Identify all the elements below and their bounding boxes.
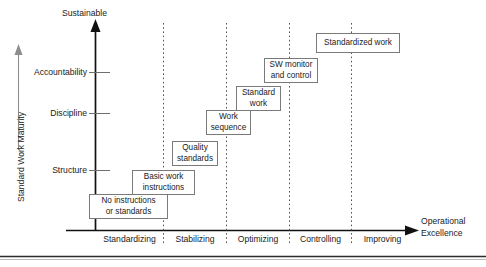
x-axis-title: Operational Excellence — [421, 216, 465, 239]
x-tick-label-standardizing: Standardizing — [96, 234, 163, 244]
box-no-instructions-or-standards: No instructions or standards — [89, 194, 168, 219]
box-standardized-work: Standardized work — [316, 33, 400, 53]
x-tick-label-controlling: Controlling — [290, 234, 351, 244]
x-tick-label-optimizing: Optimizing — [227, 234, 289, 244]
x-axis-title-line1: Operational — [421, 216, 465, 228]
standard-work-maturity-diagram: Sustainable Standard Work Maturity Accou… — [0, 0, 486, 267]
box-quality-standards: Quality standards — [172, 141, 218, 166]
box-quality-standards-line1: Quality — [177, 143, 213, 154]
x-axis-title-line2: Excellence — [421, 228, 465, 240]
y-tick-label-structure: Structure — [52, 165, 87, 175]
box-no-instructions-or-standards-line1: No instructions — [101, 196, 155, 207]
y-axis-title: Standard Work Maturity — [16, 92, 26, 222]
box-quality-standards-line2: standards — [177, 154, 213, 165]
y-tick-label-discipline: Discipline — [50, 108, 87, 118]
y-axis-top-label: Sustainable — [62, 8, 107, 18]
box-no-instructions-or-standards-line2: or standards — [101, 207, 155, 218]
box-basic-work-instructions-line1: Basic work — [143, 172, 184, 183]
y-tick-label-accountability: Accountability — [34, 67, 87, 77]
maturity-direction-arrowhead — [15, 44, 23, 55]
box-standard-work-line1: Standard — [242, 88, 275, 99]
box-work-sequence-line2: sequence — [211, 123, 247, 134]
box-sw-monitor-and-control-line2: and control — [270, 71, 313, 82]
box-sw-monitor-and-control-line1: SW monitor — [270, 60, 313, 71]
y-axis-arrowhead — [91, 19, 101, 32]
box-sw-monitor-and-control: SW monitor and control — [264, 58, 318, 83]
box-basic-work-instructions: Basic work instructions — [132, 170, 195, 195]
box-work-sequence-line1: Work — [211, 112, 247, 123]
box-standard-work: Standard work — [236, 86, 281, 111]
box-standardized-work-line1: Standardized work — [324, 38, 392, 49]
box-work-sequence: Work sequence — [206, 110, 251, 135]
x-tick-label-improving: Improving — [352, 234, 413, 244]
box-standard-work-line2: work — [242, 99, 275, 110]
box-basic-work-instructions-line2: instructions — [143, 183, 184, 194]
x-tick-label-stabilizing: Stabilizing — [164, 234, 226, 244]
